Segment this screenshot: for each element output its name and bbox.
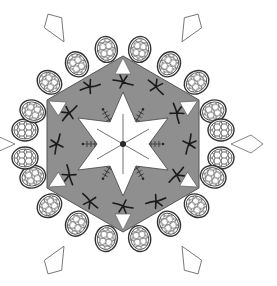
tessellation-artwork <box>0 0 277 286</box>
